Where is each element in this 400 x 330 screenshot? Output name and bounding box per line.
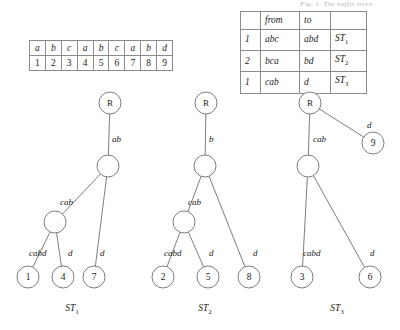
tree-leaf-label: 6	[368, 272, 373, 282]
tree-leaf-label: 1	[26, 272, 31, 282]
tree-edge-label: d	[367, 120, 372, 130]
tree-leaf-label: 8	[247, 272, 252, 282]
tree-edge-label: d	[370, 248, 375, 258]
tree-leaf-label: 3	[300, 272, 305, 282]
tree-root-label: R	[203, 98, 209, 108]
tree-edge-label: d	[68, 248, 73, 258]
tree-edge-label: d	[253, 248, 258, 258]
suffix-tree-figure: Fig. 1. The suffix trees abcabcabd 12345…	[0, 0, 400, 330]
tree-leaf-label: 9	[371, 138, 376, 148]
tree-edge-label: cab	[313, 134, 326, 144]
tree-edge	[205, 166, 249, 277]
tree-edge-label: ab	[112, 134, 122, 144]
tree-edge-label: cab	[60, 197, 73, 207]
suffix-tree-1: abcabcabdddR147	[17, 92, 122, 288]
tree-caption-1: ST1	[65, 303, 78, 315]
tree-root-label: R	[107, 98, 113, 108]
tree-caption-3: ST3	[330, 303, 343, 315]
tree-edge-label: d	[209, 248, 214, 258]
tree-leaf-label: 4	[61, 272, 66, 282]
tree-root-label: R	[307, 98, 313, 108]
tree-edge	[55, 166, 108, 222]
tree-caption-2: ST2	[198, 303, 211, 315]
tree-leaf-label: 7	[92, 272, 97, 282]
tree-node-internal	[173, 211, 195, 233]
suffix-tree-2: bcabcabdddR258	[152, 92, 260, 288]
tree-node-internal	[194, 155, 216, 177]
tree-edge-label: d	[100, 248, 105, 258]
tree-edge-label: cabd	[29, 248, 47, 258]
tree-leaf-label: 5	[206, 272, 211, 282]
tree-leaf-label: 2	[161, 272, 166, 282]
tree-edge	[308, 166, 370, 277]
tree-edge-label: cab	[188, 197, 201, 207]
tree-node-internal	[297, 155, 319, 177]
tree-edge-label: cabd	[303, 248, 321, 258]
tree-edge-label: cabd	[164, 248, 182, 258]
tree-edge	[94, 166, 108, 277]
tree-edge	[302, 166, 308, 277]
tree-node-internal	[44, 211, 66, 233]
tree-edge-label: b	[209, 134, 214, 144]
tree-diagrams: abcabcabdddR147bcabcabdddR258cabdcabddR9…	[0, 0, 400, 330]
suffix-tree-3: cabdcabddR936	[291, 92, 384, 288]
tree-node-internal	[97, 155, 119, 177]
